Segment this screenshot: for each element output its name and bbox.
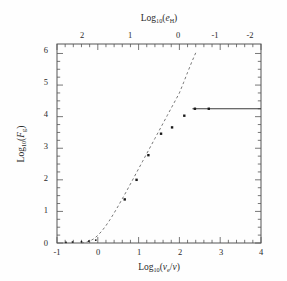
top-tick-label-neg1: -1 (211, 30, 218, 40)
x-axis-paren-close: ) (177, 262, 180, 273)
y-tick-label-1: 1 (44, 205, 48, 215)
data-point (124, 198, 126, 200)
bottom-axis-title: Log10(ve/v) (138, 262, 180, 273)
x-tick-label-2: 2 (178, 247, 182, 257)
y-tick-label-3: 3 (44, 141, 48, 151)
data-point (160, 133, 162, 135)
y-tick-label-0: 0 (44, 238, 48, 248)
data-point (95, 239, 97, 241)
y-axis-log-text: Log (16, 147, 26, 163)
data-point (171, 126, 173, 128)
top-axis-log-text: Log (141, 13, 157, 23)
data-point (183, 115, 185, 117)
y-tick-label-6: 6 (44, 45, 48, 55)
figure-container: Log10(eH) 2 1 0 -1 -2 -1 0 1 2 3 4 Log10… (0, 0, 287, 281)
top-tick-label-neg2: -2 (246, 30, 253, 40)
x-tick-label-3: 3 (219, 247, 223, 257)
data-point (81, 241, 83, 243)
top-tick-label-0: 0 (176, 30, 180, 40)
data-point (88, 240, 90, 242)
x-axis-log-text: Log (138, 262, 154, 272)
x-tick-label-0: 0 (96, 247, 100, 257)
scientific-plot: Log10(eH) 2 1 0 -1 -2 -1 0 1 2 3 4 Log10… (0, 0, 287, 281)
data-point (135, 179, 137, 181)
x-tick-label-neg1: -1 (53, 247, 60, 257)
data-point (208, 108, 210, 110)
data-point (65, 242, 67, 244)
data-point (147, 154, 149, 156)
y-tick-label-5: 5 (44, 77, 48, 87)
y-axis-paren-close: ) (16, 126, 27, 129)
data-point (72, 241, 74, 243)
top-tick-label-2: 2 (80, 30, 84, 40)
top-tick-label-1: 1 (128, 30, 132, 40)
top-axis-paren-close: ) (174, 13, 177, 24)
y-tick-label-2: 2 (44, 173, 48, 183)
svg-text:Log10(ve/v): Log10(ve/v) (138, 262, 180, 273)
data-point (194, 108, 196, 110)
x-tick-label-1: 1 (137, 247, 141, 257)
